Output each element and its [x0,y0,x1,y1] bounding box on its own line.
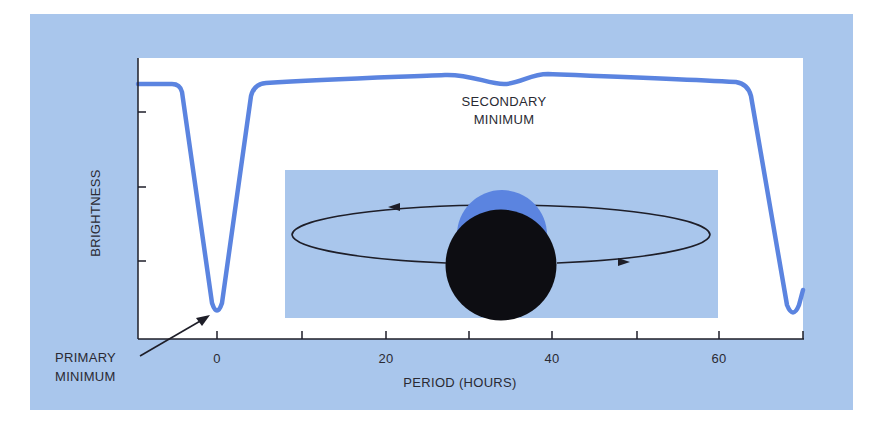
x-tick-label-40: 40 [544,351,559,366]
x-tick-label-60: 60 [711,351,726,366]
light-curve-chart: 0 20 40 60 PERIOD (HOURS) BRIGHTNESS SEC… [0,0,875,427]
primary-minimum-label-line1: PRIMARY [55,350,116,365]
x-tick-label-20: 20 [378,351,393,366]
y-axis-title: BRIGHTNESS [88,169,103,257]
large-star [446,210,557,321]
x-axis-title: PERIOD (HOURS) [403,375,516,390]
primary-minimum-label-line2: MINIMUM [55,369,116,384]
x-tick-label-0: 0 [213,351,221,366]
secondary-minimum-label-line1: SECONDARY [462,94,547,109]
binary-star-inset [285,170,718,321]
secondary-minimum-label-line2: MINIMUM [474,112,535,127]
